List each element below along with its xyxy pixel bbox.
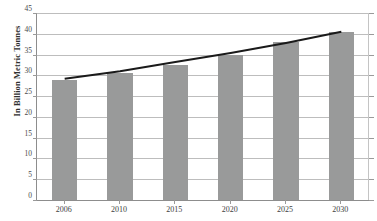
x-axis-tick-label: 2006	[56, 205, 72, 214]
y-axis-tick-right	[369, 13, 374, 14]
y-axis-tick-label: 5	[14, 170, 32, 179]
y-axis-tick-right	[369, 117, 374, 118]
y-axis-tick-right	[369, 179, 374, 180]
y-axis-tick-right	[369, 75, 374, 76]
y-axis-tick-right	[369, 55, 374, 56]
y-axis-tick-right	[369, 138, 374, 139]
y-axis-tick-label: 40	[14, 24, 32, 33]
y-axis-tick-label: 35	[14, 45, 32, 54]
y-axis-tick	[33, 200, 37, 201]
trendline	[37, 13, 369, 200]
x-axis-tick-label: 2020	[222, 205, 238, 214]
y-axis-tick-label: 0	[14, 191, 32, 200]
x-axis-tick	[174, 200, 175, 204]
x-axis-tick-label: 2010	[111, 205, 127, 214]
x-axis-tick	[64, 200, 65, 204]
x-axis-tick-label: 2015	[166, 205, 182, 214]
y-axis-tick-label: 10	[14, 149, 32, 158]
trendline-path	[65, 32, 342, 79]
y-axis-tick-right	[369, 96, 374, 97]
plot-area	[36, 13, 369, 201]
x-axis-tick	[285, 200, 286, 204]
y-axis-tick-label: 25	[14, 87, 32, 96]
bar-chart-figure: In Billion Metric Tonnes 051015202530354…	[0, 0, 377, 221]
y-axis-tick-label: 45	[14, 4, 32, 13]
chart-title	[0, 0, 377, 1]
x-axis-tick-label: 2025	[277, 205, 293, 214]
y-axis-tick-labels: 051015202530354045	[14, 8, 32, 202]
y-axis-tick-label: 20	[14, 107, 32, 116]
x-axis-tick-labels: 200620102015202020252030	[36, 205, 368, 219]
x-axis-tick	[119, 200, 120, 204]
y-axis-tick-label: 15	[14, 128, 32, 137]
y-axis-tick-right	[369, 158, 374, 159]
y-axis-tick-right	[369, 200, 374, 201]
x-axis-tick-label: 2030	[332, 205, 348, 214]
x-axis-tick	[230, 200, 231, 204]
x-axis-tick	[340, 200, 341, 204]
y-axis-tick-right	[369, 34, 374, 35]
y-axis-tick-label: 30	[14, 66, 32, 75]
